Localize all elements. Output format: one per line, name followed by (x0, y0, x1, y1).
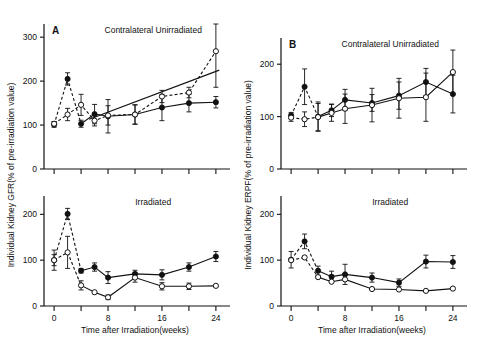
x-tick-label: 16 (394, 313, 404, 323)
data-point-open-circle (289, 258, 294, 263)
data-point-open-circle (132, 275, 137, 280)
series-line-late-open-circles (318, 277, 453, 291)
y-tick-label: 100 (260, 112, 274, 122)
data-point-open-circle (65, 112, 70, 117)
x-tick-label: 0 (52, 313, 57, 323)
data-point-filled-circle (302, 84, 307, 89)
data-point-open-circle (78, 283, 83, 288)
data-point-open-circle (213, 49, 218, 54)
scientific-figure: 0100200300Contralateral Unirradiated0100… (0, 0, 481, 342)
subplot-title-panel-a-top: Contralateral Unirradiated (105, 25, 203, 35)
data-point-filled-circle (78, 121, 83, 126)
data-point-filled-circle (369, 275, 374, 280)
x-axis-title-b: Time after Irradiation(weeks) (318, 325, 426, 335)
x-tick-label: 8 (343, 313, 348, 323)
data-point-filled-circle (65, 76, 70, 81)
data-point-open-circle (342, 277, 347, 282)
data-point-filled-circle (423, 259, 428, 264)
data-point-filled-circle (105, 275, 110, 280)
y-tick-label: 100 (23, 255, 37, 265)
x-tick-label: 8 (106, 313, 111, 323)
y-tick-label: 200 (260, 209, 274, 219)
data-point-filled-circle (159, 105, 164, 110)
y-tick-label: 100 (23, 120, 37, 130)
y-tick-label: 300 (23, 32, 37, 42)
data-point-filled-circle (396, 280, 401, 285)
data-point-open-circle (186, 284, 191, 289)
data-point-open-circle (65, 250, 70, 255)
subplot-panel-a-top: 0100200300Contralateral Unirradiated (23, 24, 230, 174)
series-line-late-filled-circles (318, 82, 453, 117)
data-point-filled-circle (450, 259, 455, 264)
y-tick-label: 200 (23, 76, 37, 86)
data-point-open-circle (315, 275, 320, 280)
data-point-open-circle (396, 96, 401, 101)
y-tick-label: 0 (32, 301, 37, 311)
series-line-late-open-circles (318, 72, 453, 117)
y-axis-title-b: Individual Kidney ERPF(% of pre-irradiat… (243, 80, 253, 270)
data-point-open-circle (329, 279, 334, 284)
trend-line (89, 70, 219, 119)
subplot-title-panel-b-bottom: Irradiated (372, 197, 408, 207)
data-point-open-circle (423, 288, 428, 293)
subplot-title-panel-b-top: Contralateral Unirradiated (342, 39, 440, 49)
data-point-open-circle (369, 286, 374, 291)
data-point-filled-circle (342, 272, 347, 277)
data-point-open-circle (329, 110, 334, 115)
data-point-filled-circle (213, 254, 218, 259)
y-tick-label: 100 (260, 255, 274, 265)
y-tick-label: 0 (269, 164, 274, 174)
data-point-open-circle (105, 113, 110, 118)
data-point-open-circle (159, 94, 164, 99)
data-point-open-circle (159, 284, 164, 289)
data-point-filled-circle (159, 272, 164, 277)
data-point-open-circle (302, 255, 307, 260)
x-tick-label: 0 (289, 313, 294, 323)
data-point-open-circle (342, 106, 347, 111)
y-tick-label: 200 (23, 209, 37, 219)
data-point-open-circle (302, 117, 307, 122)
data-point-open-circle (92, 118, 97, 123)
data-point-open-circle (92, 290, 97, 295)
data-point-open-circle (450, 286, 455, 291)
data-point-open-circle (78, 102, 83, 107)
data-point-filled-circle (315, 268, 320, 273)
data-point-open-circle (396, 287, 401, 292)
data-point-open-circle (450, 69, 455, 74)
subplot-panel-b-bottom: 0100200081624Irradiated (260, 196, 467, 323)
data-point-open-circle (105, 295, 110, 300)
x-tick-label: 24 (448, 313, 458, 323)
data-point-filled-circle (186, 264, 191, 269)
subplot-title-panel-a-bottom: Irradiated (135, 197, 171, 207)
y-tick-label: 0 (269, 301, 274, 311)
y-axis-title-a: Individual Kidney GFR(% of pre-irradiati… (6, 82, 16, 267)
series-line-late-filled-circles (318, 262, 453, 283)
data-point-filled-circle (213, 100, 218, 105)
data-point-filled-circle (78, 268, 83, 273)
x-axis-title-a: Time after Irradiation(weeks) (81, 325, 189, 335)
x-tick-label: 16 (157, 313, 167, 323)
y-tick-label: 200 (260, 59, 274, 69)
data-point-open-circle (213, 283, 218, 288)
x-tick-label: 24 (211, 313, 221, 323)
panel-letter-a: A (52, 25, 59, 36)
series-line-late-open-circles (81, 278, 216, 298)
data-point-filled-circle (329, 274, 334, 279)
data-point-open-circle (423, 95, 428, 100)
data-point-open-circle (315, 115, 320, 120)
data-point-filled-circle (65, 211, 70, 216)
series-line-late-filled-circles (81, 257, 216, 278)
data-point-open-circle (289, 115, 294, 120)
data-point-open-circle (369, 102, 374, 107)
panel-letter-b: B (289, 39, 296, 50)
y-tick-label: 0 (32, 164, 37, 174)
data-point-open-circle (132, 112, 137, 117)
figure-root: 0100200300Contralateral Unirradiated0100… (0, 0, 481, 342)
data-point-open-circle (186, 90, 191, 95)
data-point-open-circle (52, 121, 57, 126)
subplot-panel-a-bottom: 0100200081624Irradiated (23, 196, 230, 323)
data-point-open-circle (52, 258, 57, 263)
data-point-filled-circle (302, 239, 307, 244)
data-point-filled-circle (186, 100, 191, 105)
subplot-panel-b-top: 0100200Contralateral Unirradiated (260, 38, 467, 174)
